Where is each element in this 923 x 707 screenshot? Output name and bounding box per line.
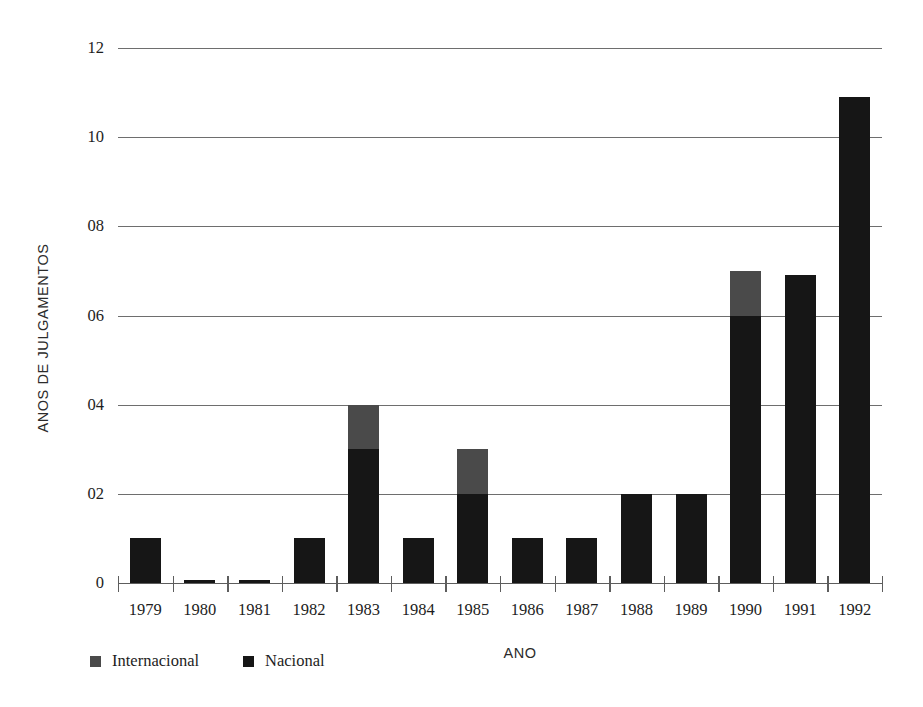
x-tick-label: 1985 bbox=[456, 600, 489, 620]
x-tick-label: 1986 bbox=[511, 600, 544, 620]
bar-group[interactable] bbox=[730, 48, 761, 583]
x-tick-mark bbox=[336, 576, 337, 592]
x-tick-mark bbox=[500, 576, 501, 592]
legend-label: Internacional bbox=[112, 651, 199, 671]
gridline bbox=[118, 137, 882, 138]
x-tick-mark bbox=[882, 576, 883, 592]
gridline bbox=[118, 226, 882, 227]
bar-group[interactable] bbox=[184, 48, 215, 583]
legend-swatch-icon bbox=[90, 656, 101, 667]
x-tick-mark bbox=[609, 576, 610, 592]
x-tick-label: 1992 bbox=[838, 600, 871, 620]
x-tick-label: 1979 bbox=[129, 600, 162, 620]
x-tick-mark bbox=[773, 576, 774, 592]
x-axis-title: ANO bbox=[430, 645, 610, 661]
y-tick-label: 08 bbox=[88, 216, 105, 236]
x-tick-label: 1984 bbox=[402, 600, 435, 620]
x-tick-label: 1980 bbox=[183, 600, 216, 620]
x-tick-label: 1989 bbox=[675, 600, 708, 620]
x-tick-mark bbox=[391, 576, 392, 592]
x-tick-mark bbox=[555, 576, 556, 592]
x-tick-label: 1983 bbox=[347, 600, 380, 620]
x-tick-label: 1991 bbox=[784, 600, 817, 620]
x-tick-label: 1987 bbox=[565, 600, 598, 620]
bar-group[interactable] bbox=[512, 48, 543, 583]
bar-group[interactable] bbox=[676, 48, 707, 583]
legend-swatch-icon bbox=[243, 656, 254, 667]
x-tick-mark bbox=[718, 576, 719, 592]
x-tick-mark bbox=[827, 576, 828, 592]
bar-group[interactable] bbox=[457, 48, 488, 583]
bar-group[interactable] bbox=[130, 48, 161, 583]
x-tick-mark bbox=[664, 576, 665, 592]
bar-segment-nacional[interactable] bbox=[512, 538, 543, 583]
y-tick-label: 0 bbox=[96, 573, 104, 593]
gridline bbox=[118, 405, 882, 406]
bar-segment-nacional[interactable] bbox=[130, 538, 161, 583]
bar-group[interactable] bbox=[348, 48, 379, 583]
bar-segment-nacional[interactable] bbox=[730, 316, 761, 584]
x-tick-mark bbox=[227, 576, 228, 592]
bar-group[interactable] bbox=[566, 48, 597, 583]
gridline bbox=[118, 494, 882, 495]
gridline bbox=[118, 316, 882, 317]
x-tick-label: 1990 bbox=[729, 600, 762, 620]
bar-segment-internacional[interactable] bbox=[348, 405, 379, 450]
bar-segment-nacional[interactable] bbox=[457, 494, 488, 583]
bar-segment-nacional[interactable] bbox=[839, 97, 870, 583]
gridline bbox=[118, 48, 882, 49]
x-tick-label: 1982 bbox=[293, 600, 326, 620]
bar-group[interactable] bbox=[239, 48, 270, 583]
x-tick-mark bbox=[118, 576, 119, 592]
x-tick-label: 1988 bbox=[620, 600, 653, 620]
bar-segment-nacional[interactable] bbox=[566, 538, 597, 583]
y-tick-label: 02 bbox=[88, 484, 105, 504]
bar-group[interactable] bbox=[294, 48, 325, 583]
y-axis-title: ANOS DE JULGAMENTOS bbox=[35, 188, 51, 488]
y-tick-label: 06 bbox=[88, 306, 105, 326]
bar-segment-nacional[interactable] bbox=[348, 449, 379, 583]
bar-group[interactable] bbox=[785, 48, 816, 583]
y-tick-label: 10 bbox=[88, 127, 105, 147]
legend-item-internacional[interactable]: Internacional bbox=[90, 651, 199, 671]
bar-segment-nacional[interactable] bbox=[403, 538, 434, 583]
bar-segment-internacional[interactable] bbox=[457, 449, 488, 494]
bar-segment-internacional[interactable] bbox=[730, 271, 761, 316]
bar-segment-nacional[interactable] bbox=[294, 538, 325, 583]
bar-group[interactable] bbox=[403, 48, 434, 583]
x-tick-mark bbox=[173, 576, 174, 592]
bar-segment-nacional[interactable] bbox=[621, 494, 652, 583]
y-tick-label: 04 bbox=[88, 395, 105, 415]
bar-segment-nacional[interactable] bbox=[785, 275, 816, 583]
y-tick-label: 12 bbox=[88, 38, 105, 58]
x-tick-mark bbox=[282, 576, 283, 592]
legend-item-nacional[interactable]: Nacional bbox=[243, 651, 325, 671]
plot-area: 0020406081012 19791980198119821983198419… bbox=[118, 48, 882, 583]
x-tick-label: 1981 bbox=[238, 600, 271, 620]
bar-group[interactable] bbox=[621, 48, 652, 583]
x-tick-mark bbox=[445, 576, 446, 592]
bar-group[interactable] bbox=[839, 48, 870, 583]
legend-label: Nacional bbox=[265, 651, 325, 671]
chart-container: ANOS DE JULGAMENTOS 0020406081012 197919… bbox=[0, 0, 923, 707]
chart-legend: InternacionalNacional bbox=[90, 651, 325, 671]
bar-segment-nacional[interactable] bbox=[676, 494, 707, 583]
